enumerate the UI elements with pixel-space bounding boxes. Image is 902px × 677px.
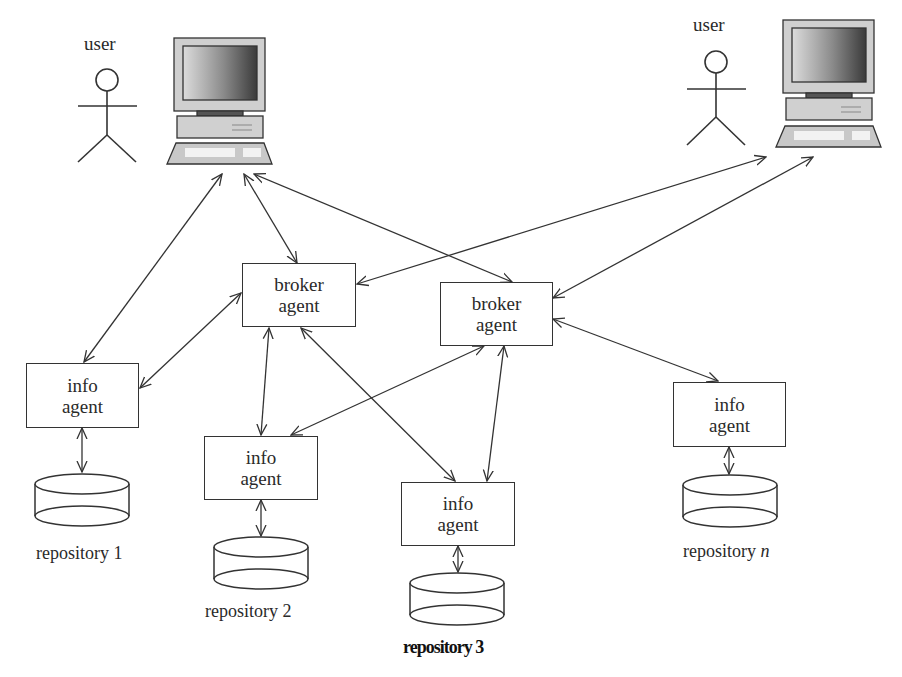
broker-agent-node[interactable]: broker agent	[440, 282, 553, 346]
edge-broker2-infoN	[553, 319, 718, 381]
node-label-line1: info	[443, 493, 474, 514]
user-label: user	[693, 15, 725, 34]
repository-label: repository 2	[205, 601, 291, 622]
edge-broker2-info2	[291, 346, 484, 435]
database-cylinder-icon	[410, 573, 504, 625]
computer-icon	[167, 38, 272, 164]
node-label-line2: agent	[240, 468, 281, 489]
node-label-line1: info	[714, 394, 745, 415]
node-label-line1: broker	[274, 274, 324, 295]
broker-agent-node[interactable]: broker agent	[242, 263, 356, 327]
info-agent-node[interactable]: info agent	[673, 382, 786, 447]
edge-computer1-info1	[84, 174, 222, 362]
node-label-line2: agent	[62, 396, 103, 417]
repository-label: repository 3	[403, 637, 483, 658]
node-label-line2: agent	[709, 415, 750, 436]
node-label-line2: agent	[476, 314, 517, 335]
user-label: user	[84, 34, 116, 53]
node-label-line2: agent	[437, 514, 478, 535]
edge-computer2-broker1	[357, 157, 766, 284]
info-agent-node[interactable]: info agent	[204, 436, 318, 500]
repository-label: repository 1	[36, 543, 122, 564]
edge-computer2-broker2	[553, 157, 813, 298]
edge-computer1-broker1	[244, 174, 297, 263]
edge-broker1-info1	[140, 293, 241, 388]
user-figure-icon	[78, 69, 137, 162]
edge-broker2-info3	[487, 346, 504, 481]
database-cylinder-icon	[214, 537, 308, 589]
node-label-line1: broker	[472, 293, 522, 314]
repository-label: repository n	[683, 541, 769, 562]
node-label-line1: info	[246, 447, 277, 468]
repository-label-prefix: repository	[683, 541, 760, 561]
edge-broker1-info3	[301, 328, 455, 481]
edge-broker1-info2	[261, 328, 269, 435]
repository-label-suffix: n	[760, 541, 769, 561]
node-label-line2: agent	[278, 295, 319, 316]
user-figure-icon	[687, 51, 746, 145]
database-cylinder-icon	[683, 475, 777, 527]
info-agent-node[interactable]: info agent	[26, 363, 139, 428]
info-agent-node[interactable]: info agent	[401, 482, 515, 546]
database-cylinder-icon	[35, 474, 129, 526]
node-label-line1: info	[67, 375, 98, 396]
computer-icon	[776, 20, 881, 147]
